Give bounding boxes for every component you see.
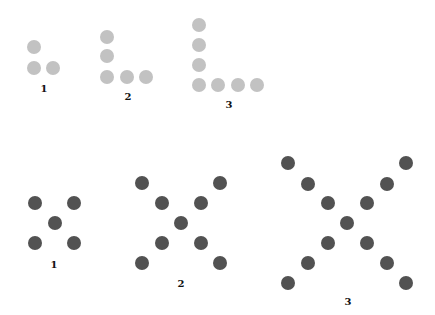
dot (321, 196, 335, 210)
dot (67, 196, 81, 210)
dot (100, 70, 114, 84)
figure-label: 3 (345, 297, 352, 307)
dot (380, 256, 394, 270)
dot (281, 156, 295, 170)
dot (321, 236, 335, 250)
dot (135, 256, 149, 270)
dot (211, 78, 225, 92)
dot (360, 236, 374, 250)
dot (213, 176, 227, 190)
dot (67, 236, 81, 250)
figure-label: 2 (178, 279, 185, 289)
dot (46, 61, 60, 75)
dot (250, 78, 264, 92)
dot (174, 216, 188, 230)
dot (48, 216, 62, 230)
dot (28, 196, 42, 210)
figure-label: 1 (41, 84, 48, 94)
dot (100, 30, 114, 44)
dot (28, 236, 42, 250)
dot (399, 156, 413, 170)
dot (231, 78, 245, 92)
dot (155, 236, 169, 250)
dot (340, 216, 354, 230)
dot (194, 196, 208, 210)
dot (192, 18, 206, 32)
figure-label: 1 (51, 260, 58, 270)
dot (120, 70, 134, 84)
dot (399, 276, 413, 290)
dot (192, 58, 206, 72)
dot (301, 256, 315, 270)
figure-label: 2 (125, 92, 132, 102)
dot (192, 78, 206, 92)
dot (194, 236, 208, 250)
dot (380, 177, 394, 191)
dot (281, 276, 295, 290)
dot (301, 177, 315, 191)
dot (360, 196, 374, 210)
dot-pattern-diagram: 1 2 3 1 2 3 (0, 0, 435, 315)
dot (192, 38, 206, 52)
dot (100, 49, 114, 63)
figure-label: 3 (226, 100, 233, 110)
dot (139, 70, 153, 84)
dot (155, 196, 169, 210)
dot (213, 256, 227, 270)
dot (27, 40, 41, 54)
dot (135, 176, 149, 190)
dot (27, 61, 41, 75)
